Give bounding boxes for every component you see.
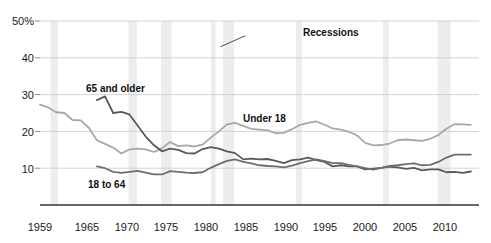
series-label-65-and-older: 65 and older (86, 83, 145, 94)
y-tick-label-10: 10 (0, 163, 34, 175)
series-line-18-to-64 (97, 155, 471, 175)
recession-band (438, 21, 451, 205)
y-tick-label-40: 40 (0, 52, 34, 64)
recessions-annotation-label: Recessions (303, 27, 359, 38)
x-tick-label-2010: 2010 (422, 221, 468, 233)
recession-band (129, 21, 137, 205)
recession-band (296, 21, 302, 205)
recession-band (383, 21, 389, 205)
y-tick-label-30: 30 (0, 89, 34, 101)
series-label-18-to-64: 18 to 64 (88, 179, 125, 190)
y-tick-label-20: 20 (0, 126, 34, 138)
y-tick-label-50: 50% (0, 15, 34, 27)
series-line-under-18 (40, 105, 471, 154)
recession-band (161, 21, 172, 205)
recession-band (211, 21, 216, 205)
series-label-under-18: Under 18 (243, 113, 286, 124)
poverty-rate-line-chart: 50% 40 30 20 10 1959 1965 1970 1975 1980… (0, 0, 491, 243)
series-line-65-and-older (97, 96, 471, 173)
recession-band (223, 21, 234, 205)
x-tick-label-1959: 1959 (17, 221, 63, 233)
